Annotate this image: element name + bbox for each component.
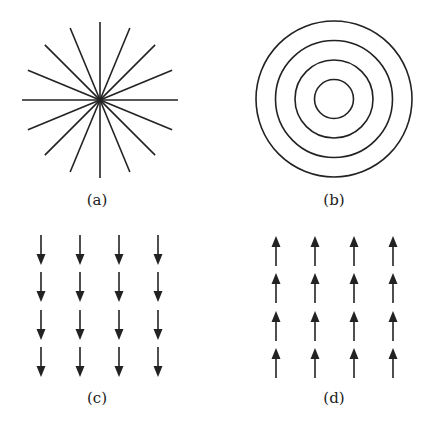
arrow-down-icon [76,235,85,265]
arrow-up-icon [272,236,281,266]
arrow-up-icon [311,348,320,378]
arrow-down-icon [37,347,46,377]
arrow-down-icon [115,347,124,377]
panel-b-label: (b) [323,191,344,209]
concentric-circle [315,80,354,119]
arrow-up-icon [389,273,398,303]
arrow-down-icon [154,235,163,265]
arrow-up-icon [272,273,281,303]
concentric-circle [276,41,393,158]
arrow-down-icon [37,272,46,302]
arrow-up-icon [350,236,359,266]
arrow-up-icon [311,273,320,303]
arrow-up-icon [350,273,359,303]
center-point [98,98,102,102]
arrow-up-icon [272,311,281,341]
panel-d-label: (d) [323,389,344,407]
concentric-circle [295,60,373,138]
panel-a-label: (a) [87,191,108,209]
arrow-down-icon [76,347,85,377]
arrow-up-icon [311,236,320,266]
arrow-down-icon [37,310,46,340]
arrow-up-icon [350,311,359,341]
arrow-up-icon [389,311,398,341]
panel-c-label: (c) [87,389,107,407]
arrow-down-icon [115,272,124,302]
arrow-down-icon [154,310,163,340]
arrow-up-icon [389,348,398,378]
arrow-down-icon [76,310,85,340]
panel-b-concentric-circles [256,21,412,177]
arrow-up-icon [350,348,359,378]
arrow-down-icon [76,272,85,302]
panel-c-downward-arrows [37,235,163,377]
arrow-up-icon [311,311,320,341]
field-diagram: (a) (b) (c) (d) [0,0,430,431]
arrow-down-icon [154,347,163,377]
arrow-down-icon [154,272,163,302]
arrow-up-icon [389,236,398,266]
arrow-up-icon [272,348,281,378]
panel-d-upward-arrows [272,236,398,378]
arrow-down-icon [37,235,46,265]
concentric-circle [256,21,412,177]
panel-a-radial-lines [22,22,178,178]
arrow-down-icon [115,235,124,265]
arrow-down-icon [115,310,124,340]
